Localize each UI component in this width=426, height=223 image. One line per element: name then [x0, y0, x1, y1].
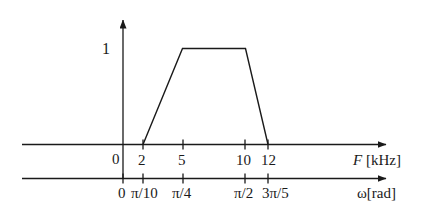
f-tick-label-2: 2: [138, 153, 146, 168]
f-axis-origin-label: 0: [112, 152, 120, 167]
f-tick-label-10: 10: [236, 153, 251, 168]
omega-tick-label-pi-2: π/2: [234, 186, 253, 201]
omega-tick-label-3pi-5: 3π/5: [262, 186, 289, 201]
omega-tick-label-pi-10: π/10: [131, 186, 158, 201]
f-axis-title: F [kHz]: [353, 153, 401, 168]
omega-tick-label-pi-4: π/4: [172, 186, 191, 201]
f-tick-label-5: 5: [178, 153, 186, 168]
f-axis-title-unit: [kHz]: [362, 152, 401, 168]
y-axis-label-1: 1: [102, 41, 110, 57]
omega-axis-origin-label: 0: [118, 186, 126, 201]
response-trapezoid: [143, 49, 268, 145]
f-tick-label-12: 12: [261, 153, 276, 168]
f-axis-title-symbol: F: [353, 152, 362, 168]
omega-axis-title: ω[rad]: [357, 186, 396, 201]
figure-canvas: 1 0 2 5 10 12 F [kHz] 0 π/10 π/4 π/2 3π/…: [0, 0, 426, 223]
